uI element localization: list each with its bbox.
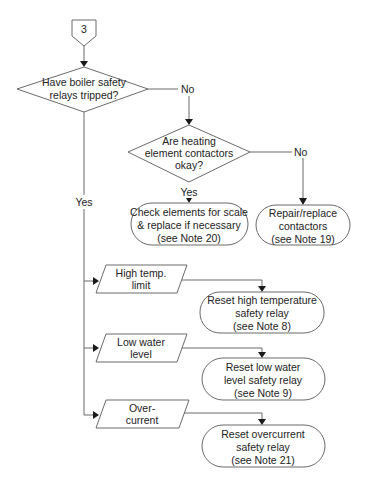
action-repair-contactors: Repair/replace contactors (see Note 19) — [256, 205, 350, 245]
svg-text:(see Note 9): (see Note 9) — [234, 387, 292, 399]
svg-text:Have boiler safety: Have boiler safety — [42, 76, 127, 88]
decision-contactors-okay: Are heating element contactors okay? — [128, 125, 250, 182]
input-high-temp-limit: High temp. limit — [96, 265, 187, 293]
decision-boiler-relays-tripped: Have boiler safety relays tripped? — [17, 67, 148, 112]
svg-text:Check elements for scale: Check elements for scale — [130, 206, 248, 218]
action-reset-high-temp: Reset high temperature safety relay (see… — [200, 292, 324, 333]
svg-text:level safety relay: level safety relay — [224, 374, 303, 386]
action-check-elements: Check elements for scale & replace if ne… — [130, 203, 248, 245]
no-label: No — [181, 83, 195, 95]
arrow-icon — [93, 344, 99, 352]
arrow-icon — [299, 198, 307, 205]
svg-text:(see Note 8): (see Note 8) — [233, 320, 291, 332]
action-reset-overcurrent: Reset overcurrent safety relay (see Note… — [202, 425, 325, 467]
arrow-icon — [258, 286, 266, 292]
arrow-icon — [80, 61, 88, 67]
action-reset-low-water: Reset low water level safety relay (see … — [202, 358, 325, 400]
svg-text:Over-: Over- — [129, 402, 156, 414]
svg-text:(see Note 19): (see Note 19) — [271, 233, 335, 245]
arrow-icon — [258, 352, 266, 358]
svg-text:Reset high temperature: Reset high temperature — [207, 294, 317, 306]
svg-text:(see Note 21): (see Note 21) — [231, 454, 295, 466]
svg-text:Low water: Low water — [117, 336, 165, 348]
yes-label: Yes — [180, 186, 197, 198]
svg-text:limit: limit — [132, 279, 151, 291]
svg-text:level: level — [130, 348, 152, 360]
arrow-icon — [258, 419, 266, 425]
svg-text:relays tripped?: relays tripped? — [50, 89, 119, 101]
arrow-icon — [93, 277, 99, 285]
svg-text:& replace if necessary: & replace if necessary — [137, 219, 241, 231]
arrow-icon — [93, 411, 99, 419]
input-overcurrent: Over- current — [96, 400, 189, 428]
svg-text:safety relay: safety relay — [235, 307, 289, 319]
arrow-icon — [186, 198, 192, 203]
connector-label: 3 — [81, 23, 87, 35]
svg-text:contactors: contactors — [279, 220, 327, 232]
svg-text:Repair/replace: Repair/replace — [269, 207, 337, 219]
input-low-water-level: Low water level — [96, 334, 187, 362]
no-label: No — [294, 146, 308, 158]
svg-text:element contactors: element contactors — [145, 147, 234, 159]
svg-text:(see Note 20): (see Note 20) — [157, 232, 221, 244]
arrow-icon — [185, 119, 193, 125]
svg-text:Are heating: Are heating — [162, 135, 216, 147]
svg-text:okay?: okay? — [175, 159, 203, 171]
svg-text:safety relay: safety relay — [236, 441, 290, 453]
yes-label: Yes — [75, 196, 92, 208]
svg-text:High temp.: High temp. — [116, 267, 167, 279]
svg-text:Reset overcurrent: Reset overcurrent — [221, 428, 305, 440]
off-page-connector: 3 — [72, 20, 96, 46]
svg-text:current: current — [126, 414, 159, 426]
flowchart: 3 Have boiler safety relays tripped? No … — [0, 0, 367, 480]
svg-text:Reset low water: Reset low water — [226, 361, 301, 373]
